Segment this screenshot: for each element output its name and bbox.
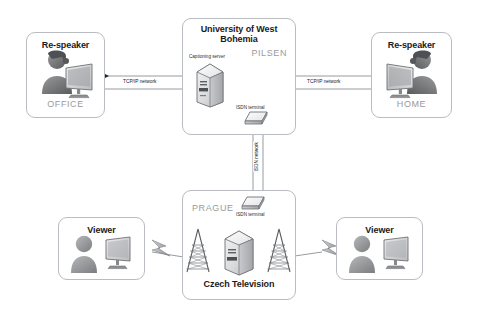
broadcast-antenna-icon-left: [182, 228, 214, 274]
person-at-computer-icon-office: [36, 48, 98, 100]
isdn-terminal-icon-prague: [240, 195, 266, 212]
diagram-canvas: Re-speaker OFFICE University of West Boh…: [0, 0, 478, 329]
university-title-line1: University of West: [183, 24, 295, 35]
television-city-label: PRAGUE: [192, 203, 234, 213]
link-label-isdn-network: ISDN network: [253, 142, 260, 172]
university-title-line2: Bohemia: [183, 34, 295, 45]
television-title: Czech Television: [183, 279, 295, 289]
person-at-computer-icon-home: [381, 48, 443, 100]
link-label-tcpip-home: TCP/IP network: [306, 79, 342, 84]
tower-server-icon-university: [193, 60, 227, 108]
person-with-tv-icon-left: [68, 233, 135, 275]
person-with-tv-icon-right: [346, 233, 413, 275]
isdn-terminal-label-prague: ISDN terminal: [236, 212, 265, 217]
university-city-label: PILSEN: [251, 48, 287, 58]
isdn-terminal-icon-pilsen: [243, 110, 269, 127]
link-label-tcpip-office: TCP/IP network: [122, 79, 158, 84]
office-city-label: OFFICE: [27, 99, 104, 109]
tower-server-icon-television: [220, 226, 258, 276]
captioning-server-label: Captioning server: [189, 54, 225, 59]
home-city-label: HOME: [372, 99, 451, 109]
broadcast-antenna-icon-right: [263, 228, 295, 274]
